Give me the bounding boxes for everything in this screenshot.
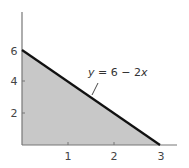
equation-leader-line: [92, 83, 98, 95]
x-tick-label-1: 1: [65, 150, 72, 163]
x-tick-label-3: 3: [158, 150, 165, 163]
x-tick-label-2: 2: [111, 150, 118, 163]
chart: 1 2 3 2 4 6 y = 6 − 2x: [0, 0, 189, 168]
equation-label: y = 6 − 2x: [87, 66, 148, 79]
y-tick-label-4: 4: [11, 75, 18, 88]
y-tick-label-2: 2: [11, 107, 18, 120]
y-tick-label-6: 6: [11, 45, 18, 58]
